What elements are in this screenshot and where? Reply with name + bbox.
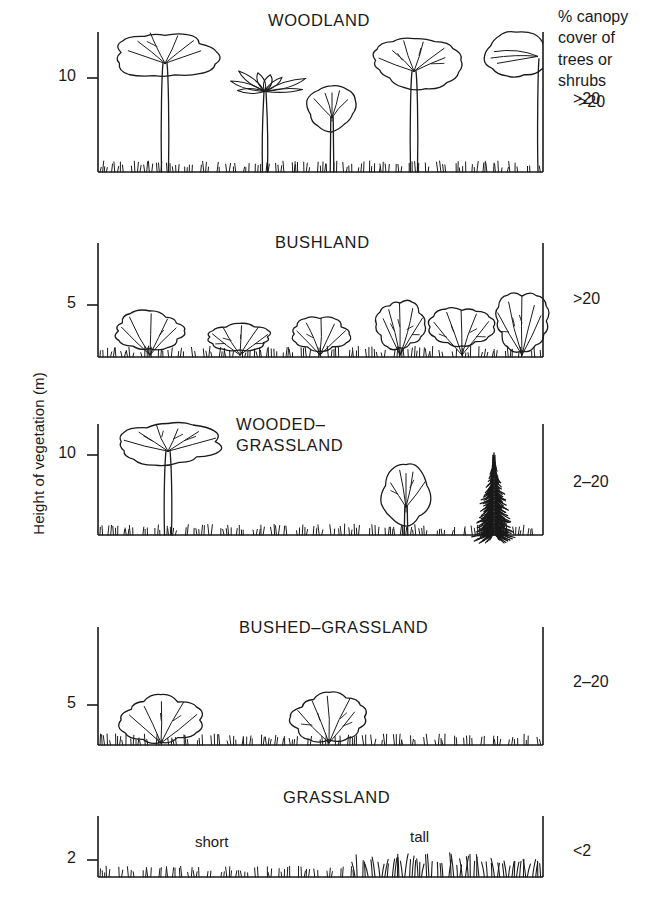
panel-title-woodland: WOODLAND — [268, 10, 370, 31]
vegetation-structure-diagram: Height of vegetation (m) % canopy cover … — [0, 0, 662, 902]
canopy-cover-header-note: % canopy cover of trees or shrubs — [558, 6, 628, 91]
y-tick-label-grassland: 2 — [30, 849, 76, 867]
y-tick-label-bushland: 5 — [30, 294, 76, 312]
plant-conifer — [472, 453, 515, 543]
plant-shrub — [289, 692, 366, 743]
plant-small-round-tree — [381, 464, 431, 535]
plant-shrub — [428, 308, 494, 355]
ground-label-short: short — [195, 833, 228, 850]
plant-palm-tree — [231, 71, 306, 172]
y-tick-label-bushed-grassland: 5 — [30, 694, 76, 712]
canopy-cover-bushland: >20 — [573, 290, 600, 308]
panel-artwork-bushed-grassland — [87, 627, 543, 745]
plant-shrub — [115, 310, 185, 355]
plant-shrub — [208, 323, 271, 355]
panel-artwork-woodland — [87, 32, 547, 172]
panel-artwork-grassland — [87, 816, 543, 877]
plant-broad-crown-tree — [117, 33, 220, 172]
plant-shrub — [375, 300, 425, 355]
y-tick-label-woodland: 10 — [30, 67, 76, 85]
panel-artwork-bushland — [87, 243, 549, 357]
grass-layer — [100, 853, 541, 877]
panel-title-bushland: BUSHLAND — [275, 232, 370, 253]
panel-title-wooded-grassland: WOODED– GRASSLAND — [236, 414, 343, 455]
y-tick-label-wooded-grassland: 10 — [30, 444, 76, 462]
canopy-cover-wooded-grassland: 2–20 — [573, 473, 609, 491]
plant-shrub — [119, 694, 203, 743]
plant-broad-crown-tree — [373, 38, 462, 172]
ground-label-tall: tall — [410, 828, 429, 845]
plant-broad-crown-tree — [120, 422, 222, 535]
plant-edge-half-tree — [484, 32, 547, 172]
plant-shrub — [496, 293, 549, 355]
canopy-cover-bushed-grassland: 2–20 — [573, 673, 609, 691]
canopy-cover-woodland: >20 — [573, 90, 600, 108]
grass-layer — [100, 161, 540, 172]
plant-small-round-tree — [307, 86, 356, 172]
canopy-cover-grassland: <2 — [573, 842, 591, 860]
panel-title-bushed-grassland: BUSHED–GRASSLAND — [239, 617, 428, 638]
panel-title-grassland: GRASSLAND — [283, 787, 390, 808]
